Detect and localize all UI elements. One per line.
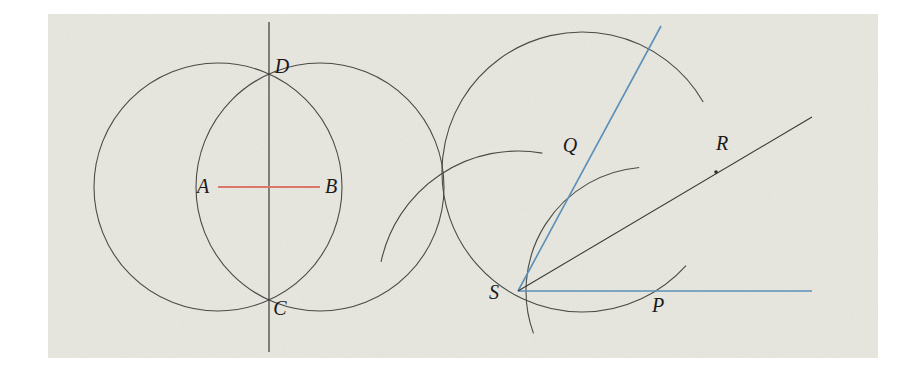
label-point-d: D <box>274 55 290 77</box>
label-point-s: S <box>489 281 499 303</box>
label-point-q: Q <box>563 134 578 156</box>
label-point-a: A <box>195 175 210 197</box>
label-point-r: R <box>715 132 728 154</box>
label-point-c: C <box>273 297 287 319</box>
geometry-figure: A B C D S P Q R <box>0 0 921 372</box>
paper-grain-overlay <box>48 14 878 358</box>
label-point-p: P <box>651 294 664 316</box>
point-marker-r <box>714 170 718 174</box>
figure-page: A B C D S P Q R <box>0 0 921 372</box>
label-point-b: B <box>325 175 337 197</box>
